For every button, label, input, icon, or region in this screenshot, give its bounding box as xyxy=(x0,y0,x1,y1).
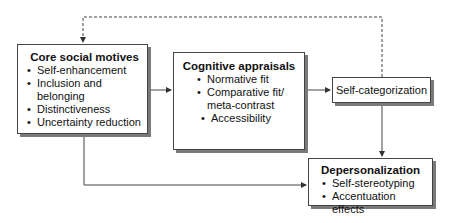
node-core-social-motives: Core social motives Self-enhancement Inc… xyxy=(17,44,148,134)
node-self-categorization: Self-categorization xyxy=(332,77,431,103)
node-item-list: Normative fit Comparative fit/ meta-cont… xyxy=(196,73,300,125)
list-item: Normative fit xyxy=(196,73,300,86)
node-title: Core social motives xyxy=(26,50,143,64)
node-title: Cognitive appraisals xyxy=(178,59,300,73)
list-item: Accentuation effects xyxy=(321,190,428,216)
node-title: Self-categorization xyxy=(333,84,430,96)
list-item: Self-enhancement xyxy=(26,64,143,77)
node-depersonalization: Depersonalization Self-stereotyping Acce… xyxy=(308,158,433,206)
list-item-continuation: belonging xyxy=(26,90,143,103)
list-item-continuation: meta-contrast xyxy=(196,99,300,112)
list-item: Distinctiveness xyxy=(26,103,143,116)
list-item: Inclusion and xyxy=(26,77,143,90)
list-item: Accessibility xyxy=(200,112,300,125)
node-item-list: Self-stereotyping Accentuation effects xyxy=(321,177,428,216)
diagram-canvas: Core social motives Self-enhancement Inc… xyxy=(0,0,455,223)
node-title: Depersonalization xyxy=(313,163,428,177)
node-item-list: Self-enhancement Inclusion and belonging… xyxy=(26,64,143,129)
list-item: Comparative fit/ xyxy=(196,86,300,99)
list-item: Self-stereotyping xyxy=(321,177,428,190)
list-item: Uncertainty reduction xyxy=(26,116,143,129)
node-cognitive-appraisals: Cognitive appraisals Normative fit Compa… xyxy=(173,52,305,150)
